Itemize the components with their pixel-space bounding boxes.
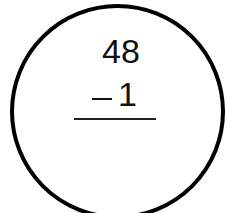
subtrahend: 1 [118, 77, 137, 111]
subtraction-problem-card: 48 1 [0, 0, 227, 213]
answer-line [74, 118, 156, 120]
minus-sign-icon [92, 98, 112, 100]
minuend: 48 [102, 34, 140, 68]
